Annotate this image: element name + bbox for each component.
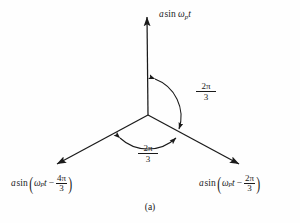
angle-denominator: 3 — [196, 92, 216, 102]
open-paren: ( — [217, 175, 221, 193]
fraction-denominator: 3 — [244, 184, 255, 193]
minus-sign: − — [47, 179, 56, 189]
close-paren: ) — [256, 175, 260, 193]
phasor-label-phase-b: a sin ( ωpt − 2π 3 ) — [199, 174, 261, 194]
close-paren: ) — [68, 175, 72, 193]
sin-function: sin — [17, 179, 28, 189]
sin-function: sin — [165, 9, 176, 19]
phasor-label-phase-a: a sin ωpt — [159, 10, 191, 21]
angle-label-lower: 2π 3 — [138, 143, 158, 164]
phasor-line-phase-b — [148, 115, 239, 164]
open-paren: ( — [29, 175, 33, 193]
phasor-diagram-figure: a sin ωpt a sin ( ωpt − 4π 3 ) a sin ( ω… — [0, 0, 300, 223]
time-variable: t — [188, 9, 191, 19]
figure-caption: (a) — [0, 202, 300, 212]
phasor-line-phase-a — [147, 17, 148, 115]
minus-sign: − — [235, 179, 244, 189]
phasor-label-phase-c: a sin ( ωpt − 4π 3 ) — [11, 174, 73, 194]
angle-label-upper: 2π 3 — [196, 81, 216, 102]
phase-offset-fraction: 4π 3 — [56, 174, 67, 194]
angle-denominator: 3 — [138, 154, 158, 164]
angle-numerator: 2π — [196, 81, 216, 92]
phase-offset-fraction: 2π 3 — [244, 174, 255, 194]
phasor-line-phase-c — [57, 115, 148, 164]
omega-symbol: ω — [222, 179, 229, 189]
sin-function: sin — [205, 179, 216, 189]
omega-symbol: ω — [34, 179, 41, 189]
omega-symbol: ω — [178, 9, 185, 19]
angle-numerator: 2π — [138, 143, 158, 154]
fraction-denominator: 3 — [56, 184, 67, 193]
